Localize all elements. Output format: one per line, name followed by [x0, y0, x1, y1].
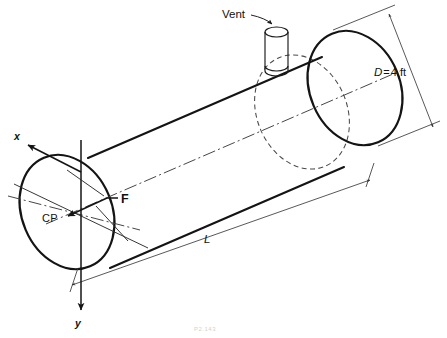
diameter-symbol: D	[374, 66, 382, 78]
tank-body	[3, 16, 420, 284]
vent-top-opening	[265, 27, 288, 37]
diameter-label-group: D=4 ft	[374, 66, 406, 78]
length-label: L	[204, 233, 210, 245]
y-axis-label: y	[74, 317, 82, 329]
hidden-end-ellipse	[238, 40, 367, 184]
x-axis-label: x	[13, 130, 21, 142]
force-vector-line	[68, 198, 107, 216]
vent-base-arc	[265, 66, 288, 71]
vent-label: Vent	[222, 8, 246, 20]
center-of-pressure-label: CP	[42, 212, 58, 224]
tank-diagram: Vent D=4 ft L	[0, 0, 447, 338]
vent-leader	[251, 15, 272, 24]
force-label: F	[121, 192, 129, 206]
face-tick-upper	[67, 170, 104, 196]
right-end-ellipse	[291, 16, 420, 160]
diameter-extension-top	[333, 5, 395, 30]
left-end-ellipse	[3, 140, 132, 284]
figure-container: Vent D=4 ft L	[0, 0, 447, 338]
vent-leader-line	[251, 15, 272, 24]
left-end-detail	[8, 140, 148, 310]
diameter-extension-bottom	[378, 121, 440, 146]
length-dimension-line	[72, 180, 370, 285]
tank-top-edge	[88, 57, 322, 158]
diameter-label: D=4 ft	[374, 66, 406, 78]
tank-bottom-edge	[110, 167, 344, 268]
diameter-value: 4 ft	[391, 66, 406, 78]
figure-caption: P2.143	[194, 326, 216, 332]
length-extension-right	[366, 163, 374, 187]
length-extension-left	[70, 268, 78, 292]
vent-pipe	[265, 27, 288, 76]
